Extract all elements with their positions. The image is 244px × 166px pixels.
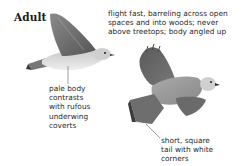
tail-annotation-line: tail with white: [161, 145, 241, 154]
tail-annotation-line: short, square: [161, 136, 241, 145]
tail-annotation: short, square tail with white corners: [161, 136, 241, 164]
adult-side-view-bird-illustration: [24, 12, 116, 74]
flight-annotation-line: flight fast, barreling across open: [108, 9, 244, 18]
body-annotation: pale body contrasts with rufous underwin…: [49, 84, 119, 130]
flight-annotation-line: spaces and into woods; never: [108, 18, 244, 27]
flight-annotation-line: above treetops; body angled up: [108, 27, 244, 36]
body-annotation-line: contrasts: [49, 93, 119, 102]
body-annotation-line: underwing: [49, 112, 119, 121]
adult-underside-view-bird-illustration: [124, 44, 220, 130]
body-annotation-line: with rufous: [49, 102, 119, 111]
body-annotation-line: coverts: [49, 121, 119, 130]
tail-annotation-line: corners: [161, 154, 241, 163]
body-annotation-leader-line: [66, 66, 70, 86]
flight-annotation: flight fast, barreling across open space…: [108, 9, 244, 37]
body-annotation-line: pale body: [49, 84, 119, 93]
